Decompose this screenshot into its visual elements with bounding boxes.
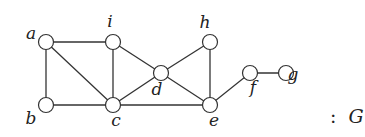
node-label-e: e [209, 110, 219, 130]
node-a [39, 35, 54, 50]
node-i [106, 35, 121, 50]
caption-prefix: : [330, 105, 336, 127]
edge-i-d [113, 42, 161, 73]
node-label-c: c [111, 110, 121, 130]
node-label-i: i [107, 11, 112, 31]
node-label-f: f [248, 77, 259, 97]
graph-caption: : G [330, 105, 364, 127]
edge-d-e [161, 73, 210, 105]
node-label-d: d [152, 79, 163, 99]
nodes-group [39, 35, 294, 113]
edge-a-c [46, 42, 113, 105]
node-h [203, 35, 218, 50]
caption-name: G [348, 105, 363, 127]
graph-diagram: aibcdhefg : G [0, 0, 365, 137]
node-b [39, 98, 54, 113]
node-label-h: h [200, 12, 211, 32]
node-label-g: g [288, 64, 299, 84]
edge-d-h [161, 42, 210, 73]
node-label-b: b [26, 108, 37, 128]
node-label-a: a [26, 23, 36, 43]
